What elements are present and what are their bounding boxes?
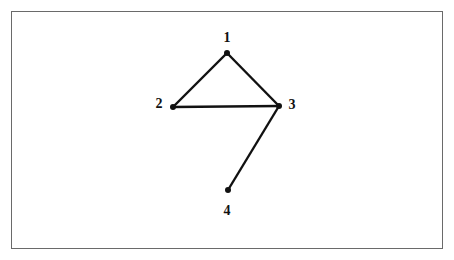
node-1 (224, 50, 230, 56)
node-label-4: 4 (224, 203, 231, 219)
edge-2-3 (173, 106, 279, 107)
nodes (170, 50, 282, 193)
node-label-3: 3 (289, 97, 296, 113)
node-2 (170, 104, 176, 110)
node-label-1: 1 (224, 30, 231, 46)
edge-3-4 (228, 106, 279, 190)
edge-1-2 (173, 53, 227, 107)
node-4 (225, 187, 231, 193)
node-label-2: 2 (156, 96, 163, 112)
edges (173, 53, 279, 190)
edge-1-3 (227, 53, 279, 106)
node-3 (276, 103, 282, 109)
